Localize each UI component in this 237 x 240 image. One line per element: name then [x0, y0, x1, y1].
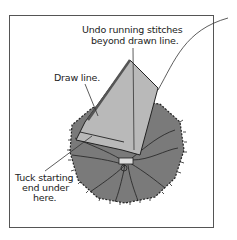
label-undo-line2: beyond drawn line.	[91, 36, 179, 47]
center-knot	[119, 158, 133, 164]
label-draw-line: Draw line.	[54, 73, 100, 84]
label-undo-line1: Undo running stitches	[82, 25, 182, 36]
label-tuck-line3: here.	[33, 193, 56, 204]
